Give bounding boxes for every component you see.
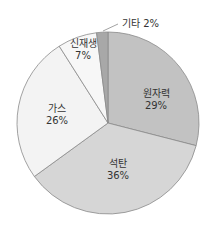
slice-pct-gas: 26% (46, 115, 68, 127)
pie-slices (17, 32, 199, 214)
other-leader-line (103, 24, 118, 31)
slice-label-nuclear: 원자력 29% (143, 88, 170, 112)
slice-name-renewable: 신재생 (70, 38, 97, 50)
pie-chart (0, 0, 215, 230)
slice-name-gas: 가스 (46, 103, 68, 115)
slice-label-renewable: 신재생 7% (70, 38, 97, 62)
slice-label-coal: 석탄 36% (107, 158, 129, 182)
slice-pct-nuclear: 29% (143, 100, 170, 112)
slice-label-gas: 가스 26% (46, 103, 68, 127)
slice-label-other: 기타 2% (122, 18, 159, 30)
slice-pct-coal: 36% (107, 170, 129, 182)
slice-name-coal: 석탄 (107, 158, 129, 170)
slice-pct-renewable: 7% (70, 50, 97, 62)
slice-name-nuclear: 원자력 (143, 88, 170, 100)
